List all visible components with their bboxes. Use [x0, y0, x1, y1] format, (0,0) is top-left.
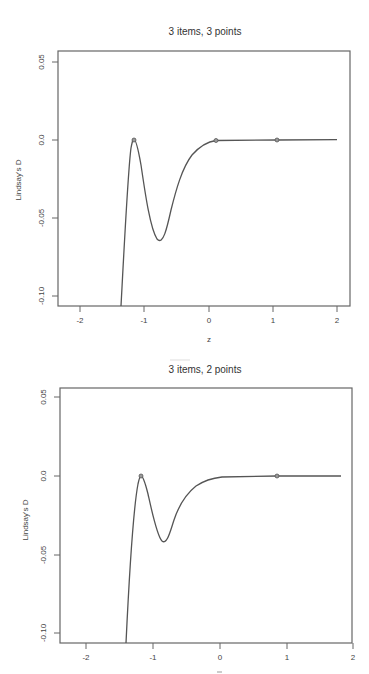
x-axis: -2 -1 0 1 2	[82, 643, 355, 672]
y-tick-label: 0.0	[39, 470, 48, 482]
x-tick-label: -1	[140, 316, 148, 325]
y-tick-label: -0.10	[39, 623, 48, 642]
y-axis-label: Lindsay's D	[14, 159, 23, 200]
data-point	[275, 474, 279, 478]
x-tick-label: -2	[76, 316, 84, 325]
y-tick-label: -0.10	[37, 286, 46, 305]
data-point	[214, 139, 218, 143]
y-tick-label: 0.05	[37, 54, 46, 70]
data-point	[275, 138, 279, 142]
y-axis: 0.05 0.0 -0.05 -0.10 Lindsay's D	[14, 54, 58, 305]
x-tick-label: 0	[207, 316, 212, 325]
figure: 3 items, 3 points 0.05 0.0 -0.05 -0.10 L…	[0, 0, 369, 674]
x-axis-label: z	[207, 335, 211, 344]
x-tick-label: -1	[149, 653, 157, 662]
x-tick-label: 2	[335, 316, 340, 325]
chart-bottom: 3 items, 2 points 0.05 0.0 -0.05 -0.10 L…	[21, 360, 356, 672]
x-tick-label: 0	[218, 653, 223, 662]
chart-title: 3 items, 3 points	[169, 26, 242, 37]
y-tick-label: 0.05	[39, 389, 48, 405]
y-axis: 0.05 0.0 -0.05 -0.10 Lindsay's D	[21, 389, 60, 642]
data-curve	[126, 476, 341, 643]
data-curve	[121, 140, 337, 307]
y-tick-label: 0.0	[37, 134, 46, 146]
plot-frame	[58, 51, 350, 306]
data-point	[139, 474, 143, 478]
x-tick-label: 1	[285, 653, 290, 662]
plot-frame	[60, 388, 352, 643]
y-tick-label: -0.05	[37, 208, 46, 227]
y-axis-label: Lindsay's D	[21, 499, 30, 540]
x-tick-label: -2	[82, 653, 90, 662]
y-tick-label: -0.05	[39, 545, 48, 564]
x-tick-label: 1	[271, 316, 276, 325]
data-point	[132, 138, 136, 142]
x-axis: -2 -1 0 1 2 z	[76, 306, 339, 344]
x-tick-label: 2	[351, 653, 356, 662]
chart-title: 3 items, 2 points	[169, 364, 242, 375]
chart-top: 3 items, 3 points 0.05 0.0 -0.05 -0.10 L…	[14, 26, 350, 344]
